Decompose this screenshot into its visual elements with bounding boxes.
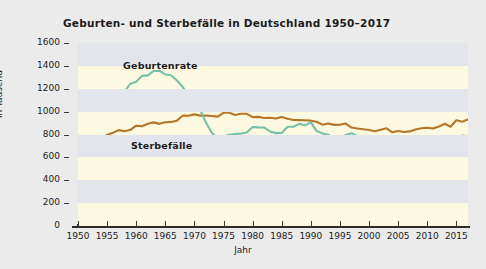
y-axis-tick-label: 800 — [20, 129, 60, 139]
x-axis-tick-label: 1990 — [299, 231, 322, 241]
x-axis-tick-mark — [194, 221, 195, 227]
y-axis-tick-label: 400 — [20, 174, 60, 184]
x-axis-tick-mark — [340, 221, 341, 227]
x-axis-tick-label: 1970 — [183, 231, 206, 241]
x-axis-tick-label: 2005 — [387, 231, 410, 241]
x-axis-tick-label: 2010 — [416, 231, 439, 241]
series-label-sterbefaelle: Sterbefälle — [131, 140, 192, 151]
x-axis-tick-mark — [253, 221, 254, 227]
y-axis-tick-mark — [64, 135, 69, 136]
y-axis-tick-label: 600 — [20, 151, 60, 161]
y-axis-tick-label: 0 — [20, 220, 60, 230]
y-axis-tick-label: 1000 — [20, 106, 60, 116]
y-axis-tick-mark — [64, 43, 69, 44]
y-axis-tick-mark — [64, 203, 69, 204]
x-axis-tick-label: 1985 — [270, 231, 293, 241]
y-axis-tick-mark — [64, 89, 69, 90]
x-axis-tick-label: 1955 — [96, 231, 119, 241]
x-axis-tick-mark — [369, 221, 370, 227]
x-axis-tick-mark — [78, 221, 79, 227]
y-axis-tick-mark — [64, 66, 69, 67]
y-axis-tick-label: 1600 — [20, 37, 60, 47]
x-axis-tick-mark — [224, 221, 225, 227]
y-axis-tick-label: 1400 — [20, 60, 60, 70]
x-axis-tick-mark — [136, 221, 137, 227]
x-axis-tick-mark — [456, 221, 457, 227]
x-axis-tick-mark — [107, 221, 108, 227]
x-axis-tick-mark — [398, 221, 399, 227]
x-axis-tick-mark — [427, 221, 428, 227]
x-axis-line — [72, 226, 470, 228]
x-axis-tick-label: 2015 — [445, 231, 468, 241]
x-axis-tick-label: 1965 — [154, 231, 177, 241]
x-axis-tick-label: 1975 — [212, 231, 235, 241]
y-axis-label: in Tausend — [0, 70, 4, 118]
y-axis-tick-mark — [64, 180, 69, 181]
chart-figure: Geburten- und Sterbefälle in Deutschland… — [0, 0, 486, 269]
x-axis-tick-label: 1950 — [67, 231, 90, 241]
x-axis-tick-mark — [311, 221, 312, 227]
x-axis-tick-mark — [165, 221, 166, 227]
y-axis-tick-mark — [64, 157, 69, 158]
y-axis-tick-mark — [64, 112, 69, 113]
y-axis-tick-label: 1200 — [20, 83, 60, 93]
x-axis-tick-label: 1960 — [125, 231, 148, 241]
chart-title: Geburten- und Sterbefälle in Deutschland… — [63, 17, 390, 29]
x-axis-tick-label: 1995 — [328, 231, 351, 241]
x-axis-label: Jahr — [0, 245, 486, 255]
x-axis-tick-label: 1980 — [241, 231, 264, 241]
y-axis-tick-label: 200 — [20, 197, 60, 207]
x-axis-tick-mark — [282, 221, 283, 227]
gridline-band — [78, 89, 468, 112]
series-label-geburtenrate: Geburtenrate — [123, 60, 198, 71]
x-axis-tick-label: 2000 — [358, 231, 381, 241]
gridline-band — [78, 180, 468, 203]
